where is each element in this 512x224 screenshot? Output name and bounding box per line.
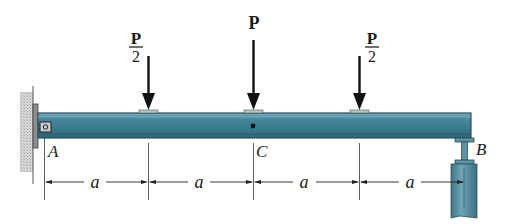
load-pad-center [244,110,263,113]
arrow-down-icon-center [247,40,260,110]
dimension-label-4: a [406,172,415,192]
pin-icon-a [40,122,51,132]
dimension-label-1: a [91,172,100,192]
load-left-numerator: P [131,29,141,48]
point-label-c: C [256,142,268,161]
point-c-marker [251,124,256,129]
load-right-numerator: P [367,29,377,48]
column-support-b [451,138,477,218]
beam-diagram: P 2 P P 2 A C B [0,0,512,224]
load-label-right: P 2 [365,29,379,65]
load-left-denominator: 2 [132,48,140,65]
load-pad-left [139,110,158,113]
load-right-denominator: 2 [368,48,376,65]
load-label-left: P 2 [129,29,143,65]
arrow-down-icon-right [353,56,366,110]
point-label-b: B [476,140,487,159]
load-pad-right [350,110,369,113]
arrow-down-icon-left [142,56,155,110]
wall-support-a [20,86,38,184]
dimension-lines [45,180,464,184]
point-label-a: A [47,142,59,161]
dimension-label-2: a [195,172,204,192]
load-label-center: P [249,13,260,33]
dimension-label-3: a [300,172,309,192]
